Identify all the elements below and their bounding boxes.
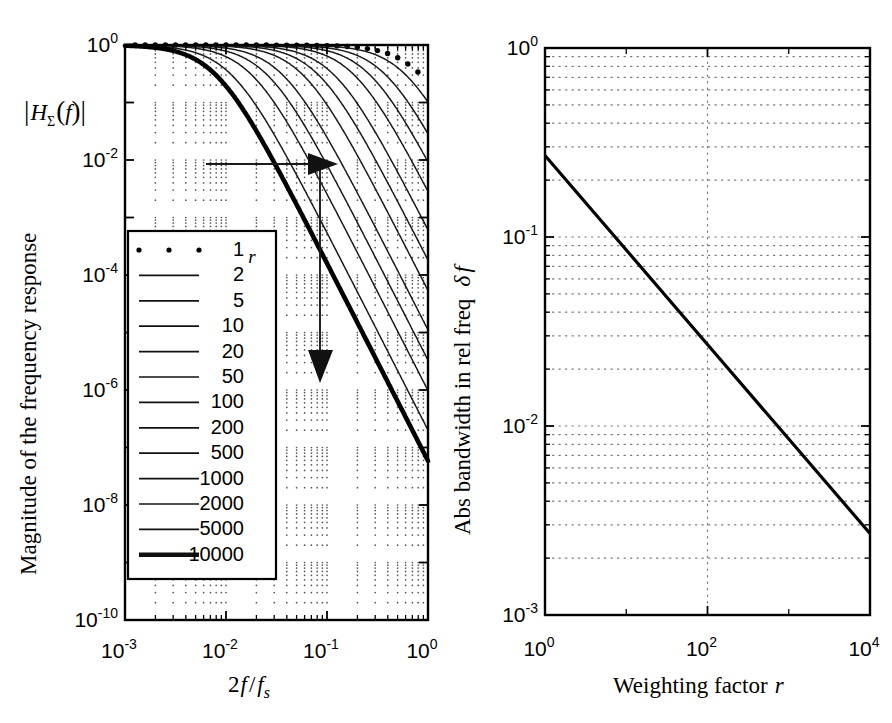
right-xtick-1: 102 bbox=[686, 634, 717, 660]
right-xtick-2: 104 bbox=[848, 634, 879, 660]
left-x-axis-label: 2f/fs bbox=[228, 672, 270, 701]
legend-item-label-50: 50 bbox=[222, 365, 244, 387]
legend-item-label-2: 2 bbox=[233, 263, 244, 285]
left-ytick-5: 10-10 bbox=[74, 605, 118, 631]
legend-item-label-100: 100 bbox=[211, 390, 244, 412]
xlabel-fs-sub: s bbox=[264, 684, 270, 701]
xlabel-slash: / bbox=[249, 672, 256, 697]
left-ytick-4: 10-8 bbox=[82, 490, 118, 516]
annotation-arrowhead-down bbox=[308, 350, 333, 383]
left-ytick-1: 10-2 bbox=[82, 145, 118, 171]
sym-sigma: Σ bbox=[47, 114, 55, 129]
legend-title: r bbox=[248, 246, 256, 267]
right-xlabel-main: Weighting factor bbox=[613, 673, 768, 698]
svg-text:Weighting factorr: Weighting factorr bbox=[613, 673, 785, 698]
left-legend[interactable]: 12510205010020050010002000500010000 r bbox=[128, 231, 276, 579]
right-grid-dots bbox=[546, 49, 869, 614]
right-y-axis-label: Abs bandwidth in rel freqδf bbox=[449, 263, 475, 536]
legend-sample-dot bbox=[136, 247, 141, 252]
left-x-tick-labels: 10-310-210-1100 bbox=[101, 636, 438, 662]
right-x-axis-label: Weighting factorr bbox=[613, 673, 785, 698]
sym-bar-open: | bbox=[24, 96, 29, 126]
left-xtick-2: 10-1 bbox=[303, 636, 339, 662]
left-xtick-1: 10-2 bbox=[202, 636, 238, 662]
legend-item-label-5: 5 bbox=[233, 289, 244, 311]
legend-sample-dot bbox=[166, 247, 171, 252]
left-xtick-0: 10-3 bbox=[101, 636, 137, 662]
right-ylabel-delta: δ bbox=[449, 275, 475, 287]
legend-item-label-10000: 10000 bbox=[188, 543, 244, 565]
left-y-axis-label: Magnitude of the frequency response bbox=[16, 233, 41, 575]
right-y-tick-labels: 10010-110-210-3 bbox=[502, 33, 538, 626]
left-xtick-3: 100 bbox=[406, 636, 437, 662]
right-ytick-2: 10-2 bbox=[502, 411, 538, 437]
right-ytick-1: 10-1 bbox=[502, 222, 538, 248]
figure-root: 12510205010020050010002000500010000 r 10… bbox=[0, 0, 892, 723]
left-ytick-0: 100 bbox=[87, 30, 118, 56]
left-ytick-3: 10-6 bbox=[82, 375, 118, 401]
right-panel: 100102104 10010-110-210-3 Weighting fact… bbox=[449, 33, 880, 698]
legend-item-label-10: 10 bbox=[222, 314, 244, 336]
legend-item-label-1: 1 bbox=[233, 238, 244, 260]
legend-item-label-200: 200 bbox=[211, 416, 244, 438]
legend-item-label-20: 20 bbox=[222, 340, 244, 362]
legend-item-label-1000: 1000 bbox=[200, 467, 245, 489]
right-ylabel-main: Abs bandwidth in rel freq bbox=[450, 298, 475, 535]
right-ylabel-f: f bbox=[450, 263, 475, 273]
left-ytick-2: 10-4 bbox=[82, 260, 118, 286]
right-ytick-3: 10-3 bbox=[502, 600, 538, 626]
left-y-axis-symbol: |HΣ(f)| bbox=[24, 96, 86, 129]
right-x-tick-labels: 100102104 bbox=[523, 634, 879, 660]
figure-svg: 12510205010020050010002000500010000 r 10… bbox=[0, 0, 892, 723]
sym-H: H bbox=[29, 100, 48, 125]
sym-bar-close: | bbox=[81, 96, 86, 126]
right-xlabel-r: r bbox=[775, 673, 785, 698]
sym-paren-open: ( bbox=[56, 96, 65, 126]
legend-sample-dot bbox=[196, 247, 201, 252]
left-panel: 12510205010020050010002000500010000 r 10… bbox=[16, 30, 438, 701]
sym-paren-close: ) bbox=[72, 96, 81, 126]
legend-item-label-5000: 5000 bbox=[200, 517, 245, 539]
svg-text:Abs bandwidth in rel freqδf: Abs bandwidth in rel freqδf bbox=[449, 263, 475, 536]
svg-text:|HΣ(f)|: |HΣ(f)| bbox=[24, 96, 86, 129]
legend-item-label-500: 500 bbox=[211, 441, 244, 463]
svg-text:2f/fs: 2f/fs bbox=[228, 672, 270, 701]
xlabel-2: 2 bbox=[228, 672, 240, 697]
right-xtick-0: 100 bbox=[523, 634, 554, 660]
legend-item-label-2000: 2000 bbox=[200, 492, 245, 514]
right-ytick-0: 100 bbox=[507, 33, 538, 59]
